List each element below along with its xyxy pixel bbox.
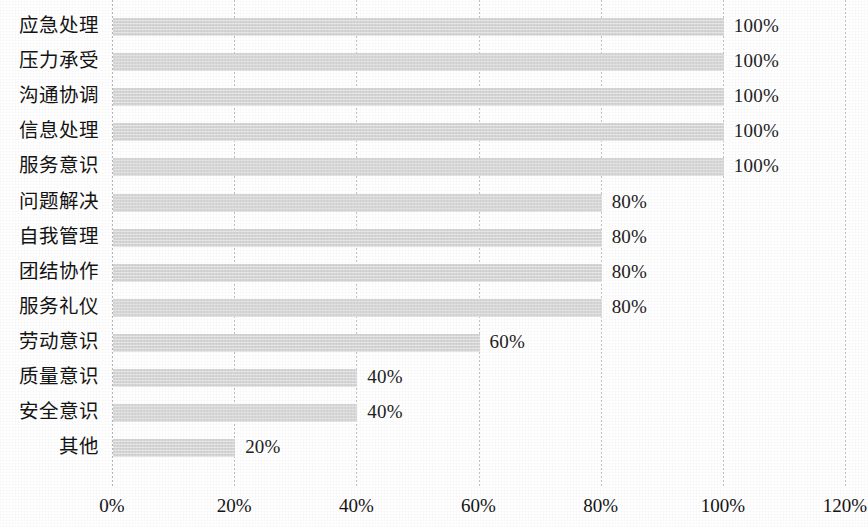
category-axis-labels: 应急处理压力承受沟通协调信息处理服务意识问题解决自我管理团结协作服务礼仪劳动意识… [0, 0, 99, 487]
bar-value-label: 40% [367, 368, 402, 386]
category-label: 问题解决 [19, 193, 99, 211]
x-axis-tick-label: 60% [461, 495, 496, 517]
x-axis-tick-label: 80% [583, 495, 618, 517]
bar [113, 369, 357, 387]
category-label: 团结协作 [19, 263, 99, 281]
bar [113, 158, 724, 176]
bar-value-label: 100% [734, 157, 779, 175]
bar-value-label: 80% [612, 298, 647, 316]
bar-value-label: 80% [612, 228, 647, 246]
bar-rows: 100%100%100%100%100%80%80%80%80%60%40%40… [112, 0, 845, 487]
bar [113, 334, 480, 352]
bar [113, 229, 602, 247]
bar [113, 194, 602, 212]
value-axis: 0%20%40%60%80%100%120% [0, 487, 868, 527]
bar [113, 439, 235, 457]
bar [113, 18, 724, 36]
category-label: 沟通协调 [19, 87, 99, 105]
category-label: 自我管理 [19, 228, 99, 246]
category-label: 服务意识 [19, 157, 99, 175]
bar-value-label: 20% [245, 438, 280, 456]
x-axis-tick-label: 20% [217, 495, 252, 517]
category-label: 应急处理 [19, 17, 99, 35]
x-axis-tick-label: 100% [701, 495, 745, 517]
bar-value-label: 100% [734, 17, 779, 35]
bar [113, 299, 602, 317]
bar-value-label: 40% [367, 403, 402, 421]
x-axis-tick-label: 40% [339, 495, 374, 517]
category-label: 压力承受 [19, 52, 99, 70]
bar-value-label: 100% [734, 122, 779, 140]
horizontal-bar-chart: 应急处理压力承受沟通协调信息处理服务意识问题解决自我管理团结协作服务礼仪劳动意识… [0, 0, 868, 527]
category-label: 信息处理 [19, 122, 99, 140]
bar-value-label: 80% [612, 263, 647, 281]
bar [113, 53, 724, 71]
bar-value-label: 60% [490, 333, 525, 351]
bar [113, 88, 724, 106]
category-label: 劳动意识 [19, 333, 99, 351]
bar-value-label: 100% [734, 87, 779, 105]
bar-value-label: 100% [734, 52, 779, 70]
category-label: 其他 [59, 438, 99, 456]
bar-value-label: 80% [612, 193, 647, 211]
category-label: 质量意识 [19, 368, 99, 386]
plot-area: 100%100%100%100%100%80%80%80%80%60%40%40… [112, 0, 845, 487]
category-label: 安全意识 [19, 403, 99, 421]
bar [113, 264, 602, 282]
gridline-120pct [845, 0, 846, 487]
x-axis-tick-label: 0% [99, 495, 124, 517]
x-axis-tick-label: 120% [823, 495, 867, 517]
bar [113, 123, 724, 141]
category-label: 服务礼仪 [19, 298, 99, 316]
bar [113, 404, 357, 422]
